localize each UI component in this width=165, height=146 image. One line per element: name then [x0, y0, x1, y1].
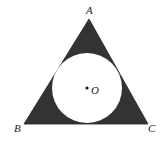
label-a: A	[85, 4, 93, 16]
center-point-o	[85, 86, 88, 89]
triangle-diagram: A B C O	[0, 0, 165, 146]
label-c: C	[148, 122, 156, 134]
label-b: B	[14, 122, 21, 134]
label-o: O	[91, 84, 99, 96]
